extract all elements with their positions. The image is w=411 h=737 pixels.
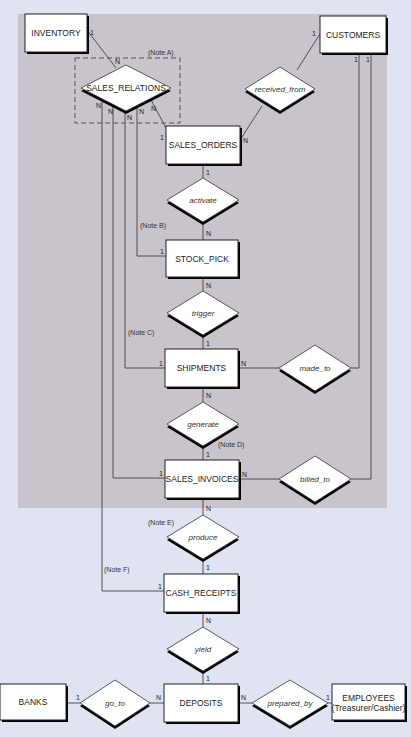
relationship-label: received_from	[255, 85, 306, 94]
cardinality-label: 1	[206, 340, 210, 347]
note-label: (Note F)	[104, 566, 130, 574]
cardinality-label: N	[96, 102, 101, 109]
relationship-label: SALES_RELATIONS	[86, 83, 166, 93]
entity-label: EMPLOYEES	[342, 693, 395, 703]
note-label: (Note B)	[140, 222, 166, 230]
entity-sublabel: (Treasurer/Cashier)	[332, 703, 406, 713]
relationship-label: billed_to	[300, 475, 330, 484]
relationship-label: activate	[189, 196, 217, 205]
cardinality-label: 1	[206, 451, 210, 458]
connection-line: 1	[66, 694, 80, 703]
entity-label: STOCK_PICK	[175, 254, 229, 264]
cardinality-label: N	[127, 114, 132, 121]
relationship-prepared-by: prepared_by	[252, 680, 328, 729]
cardinality-label: N	[151, 105, 156, 112]
cardinality-label: N	[206, 505, 211, 512]
entity-label: SALES_INVOICES	[166, 474, 239, 484]
cardinality-label: N	[206, 282, 211, 289]
entity-deposits: DEPOSITS	[164, 684, 240, 724]
cardinality-label: N	[139, 108, 144, 115]
cardinality-label: 1	[160, 134, 164, 141]
entity-sales-orders: SALES_ORDERS	[166, 126, 242, 166]
cardinality-label: 1	[160, 248, 164, 255]
entity-cash-receipts: CASH_RECEIPTS	[164, 574, 240, 614]
cardinality-label: 1	[159, 360, 163, 367]
entity-customers: CUSTOMERS	[320, 16, 388, 55]
cardinality-label: 1	[354, 56, 358, 63]
cardinality-label: 1	[206, 564, 210, 571]
cardinality-label: 1	[159, 470, 163, 477]
cardinality-label: N	[243, 137, 248, 144]
cardinality-label: 1	[90, 29, 94, 36]
relationship-produce: produce	[167, 515, 239, 562]
entity-label: BANKS	[19, 697, 48, 707]
cardinality-label: 1	[366, 56, 370, 63]
cardinality-label: N	[241, 360, 246, 367]
cardinality-label: N	[206, 230, 211, 237]
cardinality-label: 1	[158, 583, 162, 590]
entity-shipments: SHIPMENTS	[165, 349, 240, 389]
relationship-label: yield	[194, 645, 212, 654]
entity-label: CASH_RECEIPTS	[166, 588, 237, 598]
note-a-label: (Note A)	[148, 49, 174, 57]
relationship-label: go_to	[105, 699, 126, 708]
cardinality-label: 1	[326, 694, 330, 701]
connection-line: N	[150, 694, 164, 703]
connection-line: N	[203, 612, 211, 627]
cardinality-label: N	[115, 58, 120, 65]
relationship-yield: yield	[167, 627, 239, 674]
cardinality-label: N	[206, 392, 211, 399]
cardinality-label: N	[156, 694, 161, 701]
relationship-label: trigger	[192, 309, 215, 318]
cardinality-label: N	[206, 617, 211, 624]
entity-label: CUSTOMERS	[326, 30, 380, 40]
cardinality-label: N	[108, 108, 113, 115]
entity-stock-pick: STOCK_PICK	[166, 240, 240, 279]
entity-employees: EMPLOYEES(Treasurer/Cashier)	[332, 684, 407, 722]
relationship-label: prepared_by	[267, 699, 314, 708]
relationship-label: made_to	[299, 364, 331, 373]
entity-label: INVENTORY	[31, 28, 81, 38]
entity-banks: BANKS	[0, 684, 68, 722]
entity-label: DEPOSITS	[180, 698, 223, 708]
entity-sales-invoices: SALES_INVOICES	[165, 460, 241, 500]
note-label: (Note E)	[148, 519, 174, 527]
entity-label: SALES_ORDERS	[169, 140, 238, 150]
cardinality-label: N	[242, 471, 247, 478]
cardinality-label: 1	[312, 30, 316, 37]
er-diagram: 1NN11N1NN1N1N1N1N1N1N1N1N1N11NN1 (Note A…	[0, 0, 411, 737]
connection-line: 1	[326, 694, 332, 703]
note-label: (Note D)	[218, 441, 244, 449]
cardinality-label: N	[241, 694, 246, 701]
note-label: (Note C)	[128, 329, 154, 337]
cardinality-label: 1	[206, 675, 210, 682]
relationship-label: produce	[188, 533, 218, 542]
cardinality-label: 1	[206, 169, 210, 176]
entity-inventory: INVENTORY	[25, 14, 89, 54]
cardinality-label: 1	[76, 694, 80, 701]
relationship-go-to: go_to	[80, 680, 150, 729]
relationship-label: generate	[187, 420, 219, 429]
connection-line: N	[238, 694, 252, 703]
entity-label: SHIPMENTS	[177, 363, 227, 373]
